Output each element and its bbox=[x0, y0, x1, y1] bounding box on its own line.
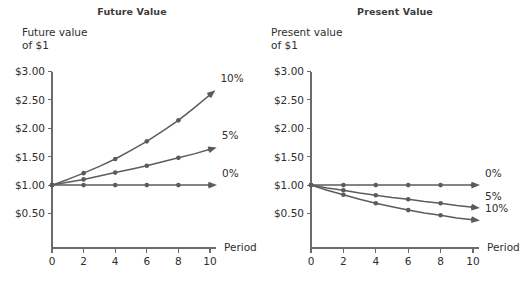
data-point bbox=[406, 197, 411, 202]
series-label-5pct: 5% bbox=[485, 190, 502, 202]
y-axis-tick-label: $1.50 bbox=[15, 151, 45, 163]
series-label-10pct: 10% bbox=[220, 72, 243, 84]
x-axis-tick-label: 2 bbox=[80, 255, 87, 267]
y-axis-tick-label: $2.50 bbox=[274, 94, 304, 106]
x-axis-tick-label: 0 bbox=[308, 255, 315, 267]
data-point bbox=[113, 170, 118, 175]
data-point bbox=[50, 183, 55, 188]
y-axis-tick-label: $2.00 bbox=[274, 122, 304, 134]
data-point bbox=[438, 201, 443, 206]
data-point bbox=[145, 139, 150, 144]
x-axis-tick-label: 6 bbox=[143, 255, 150, 267]
x-axis-tick-label: 2 bbox=[340, 255, 347, 267]
data-point bbox=[406, 183, 411, 188]
x-axis-tick-label: 10 bbox=[203, 255, 216, 267]
x-axis-tick-label: 4 bbox=[112, 255, 119, 267]
data-point bbox=[208, 183, 213, 188]
series-label-0pct: 0% bbox=[222, 167, 239, 179]
x-axis-tick-label: 4 bbox=[372, 255, 379, 267]
x-axis-tick-label: 8 bbox=[175, 255, 182, 267]
data-point bbox=[145, 163, 150, 168]
series-line-5pct bbox=[52, 149, 210, 185]
chart-present-value: $0.50$1.00$1.50$2.00$2.50$3.000246810Per… bbox=[263, 0, 527, 283]
data-point bbox=[176, 156, 181, 161]
y-axis-tick-label: $1.00 bbox=[15, 179, 45, 191]
data-point bbox=[176, 183, 181, 188]
y-axis-tick-label: $3.00 bbox=[15, 65, 45, 77]
x-axis-tick-label: 0 bbox=[49, 255, 56, 267]
x-axis-tick-label: 6 bbox=[405, 255, 412, 267]
x-axis-tick-label: 8 bbox=[437, 255, 444, 267]
data-point bbox=[81, 183, 86, 188]
data-point bbox=[81, 171, 86, 176]
x-axis-tick-label: 10 bbox=[466, 255, 479, 267]
y-axis-tick-label: $1.00 bbox=[274, 179, 304, 191]
data-point bbox=[341, 188, 346, 193]
data-point bbox=[113, 157, 118, 162]
data-point bbox=[176, 118, 181, 123]
data-point bbox=[145, 183, 150, 188]
data-point bbox=[438, 183, 443, 188]
series-line-10pct bbox=[311, 185, 473, 220]
data-point bbox=[406, 208, 411, 213]
data-point bbox=[341, 192, 346, 197]
series-line-10pct bbox=[52, 95, 210, 185]
data-point bbox=[471, 205, 476, 210]
data-point bbox=[374, 193, 379, 198]
panel-present-value: Present Value Present value of $1 $0.50$… bbox=[263, 0, 527, 283]
y-axis-tick-label: $0.50 bbox=[15, 207, 45, 219]
y-axis-tick-label: $1.50 bbox=[274, 151, 304, 163]
series-label-10pct: 10% bbox=[485, 202, 508, 214]
chart-future-value: $0.50$1.00$1.50$2.00$2.50$3.000246810Per… bbox=[0, 0, 264, 283]
series-label-5pct: 5% bbox=[222, 129, 239, 141]
data-point bbox=[81, 177, 86, 182]
data-point bbox=[309, 183, 314, 188]
two-panel-figure: Future Value Future value of $1 $0.50$1.… bbox=[0, 0, 527, 283]
panel-future-value: Future Value Future value of $1 $0.50$1.… bbox=[0, 0, 264, 283]
data-point bbox=[374, 183, 379, 188]
data-point bbox=[438, 213, 443, 218]
series-line-5pct bbox=[311, 185, 473, 207]
data-point bbox=[113, 183, 118, 188]
data-point bbox=[374, 201, 379, 206]
data-point bbox=[208, 147, 213, 152]
y-axis-tick-label: $2.50 bbox=[15, 94, 45, 106]
y-axis-tick-label: $0.50 bbox=[274, 207, 304, 219]
series-label-0pct: 0% bbox=[485, 167, 502, 179]
data-point bbox=[471, 183, 476, 188]
x-axis-name: Period bbox=[224, 241, 257, 253]
data-point bbox=[208, 92, 213, 97]
data-point bbox=[471, 217, 476, 222]
y-axis-tick-label: $3.00 bbox=[274, 65, 304, 77]
data-point bbox=[341, 183, 346, 188]
y-axis-tick-label: $2.00 bbox=[15, 122, 45, 134]
x-axis-name: Period bbox=[487, 241, 520, 253]
